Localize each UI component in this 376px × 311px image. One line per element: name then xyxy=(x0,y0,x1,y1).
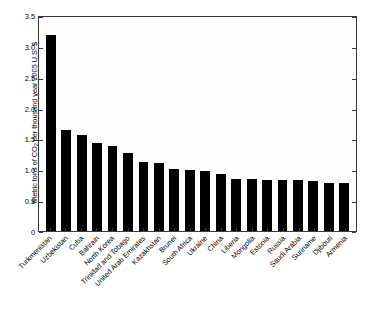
bar[interactable] xyxy=(61,130,71,231)
bar-cell[interactable] xyxy=(306,17,321,231)
x-axis-tickmark xyxy=(299,228,300,232)
bar[interactable] xyxy=(154,163,164,232)
bar[interactable] xyxy=(46,35,56,231)
bar-cell[interactable] xyxy=(321,17,336,231)
bar-cell[interactable] xyxy=(290,17,305,231)
bar[interactable] xyxy=(308,181,318,231)
bar-cell[interactable] xyxy=(182,17,197,231)
bar-cell[interactable] xyxy=(259,17,274,231)
chart-figure: Metric tons of CO2 per thousand year 200… xyxy=(0,0,376,311)
y-axis-tick-label: 2.5 xyxy=(15,75,35,82)
bar[interactable] xyxy=(123,153,133,231)
x-axis-tickmark xyxy=(345,228,346,232)
bar-cell[interactable] xyxy=(74,17,89,231)
bar-series xyxy=(39,17,356,231)
bar[interactable] xyxy=(231,179,241,231)
y-axis-tick-label: 3.0 xyxy=(15,44,35,51)
bar-cell[interactable] xyxy=(136,17,151,231)
bar[interactable] xyxy=(278,180,288,231)
y-axis-tick-label: 3.5 xyxy=(15,13,35,20)
x-axis-tickmark xyxy=(96,228,97,232)
bar[interactable] xyxy=(247,179,257,231)
x-axis-tickmark xyxy=(159,228,160,232)
bar[interactable] xyxy=(262,180,272,231)
bar[interactable] xyxy=(185,170,195,231)
bar-cell[interactable] xyxy=(244,17,259,231)
bar-cell[interactable] xyxy=(228,17,243,231)
bar-cell[interactable] xyxy=(105,17,120,231)
x-axis-tickmark xyxy=(143,228,144,232)
x-axis-tickmark xyxy=(330,228,331,232)
y-axis-tick-label: 2.0 xyxy=(15,106,35,113)
bar[interactable] xyxy=(92,143,102,231)
bar-cell[interactable] xyxy=(337,17,352,231)
bar-cell[interactable] xyxy=(58,17,73,231)
x-axis-tickmark xyxy=(112,228,113,232)
bar-cell[interactable] xyxy=(43,17,58,231)
x-axis-tickmark xyxy=(128,228,129,232)
x-axis-tickmark xyxy=(314,228,315,232)
x-axis-tickmark xyxy=(205,228,206,232)
bar[interactable] xyxy=(139,162,149,231)
bar[interactable] xyxy=(200,171,210,231)
x-axis-labels: TurkmenistanUzbekistanCubaBahrainNorth K… xyxy=(38,233,357,311)
bar-cell[interactable] xyxy=(213,17,228,231)
bar-cell[interactable] xyxy=(151,17,166,231)
bar-cell[interactable] xyxy=(198,17,213,231)
bar[interactable] xyxy=(324,183,334,231)
x-axis-tickmark xyxy=(267,228,268,232)
bar[interactable] xyxy=(339,183,349,231)
x-axis-tickmark xyxy=(190,228,191,232)
bar-cell[interactable] xyxy=(89,17,104,231)
bar-cell[interactable] xyxy=(120,17,135,231)
y-axis-tick-label: 0 xyxy=(15,229,35,236)
y-axis-tick-label: 1.5 xyxy=(15,137,35,144)
bar[interactable] xyxy=(293,180,303,231)
x-axis-tickmark xyxy=(236,228,237,232)
x-axis-tickmark xyxy=(174,228,175,232)
bar[interactable] xyxy=(77,135,87,231)
bar[interactable] xyxy=(108,146,118,231)
x-axis-tickmark xyxy=(283,228,284,232)
x-axis-tickmark xyxy=(81,228,82,232)
plot-area: 00.51.01.52.02.53.03.5 xyxy=(38,16,357,232)
bar[interactable] xyxy=(169,169,179,231)
x-axis-tickmark xyxy=(221,228,222,232)
bar[interactable] xyxy=(216,174,226,231)
y-axis-tick-label: 0.5 xyxy=(15,198,35,205)
y-axis-tick-label: 1.0 xyxy=(15,168,35,175)
x-axis-tickmark xyxy=(252,228,253,232)
bar-cell[interactable] xyxy=(275,17,290,231)
x-axis-tickmark xyxy=(50,228,51,232)
x-axis-tickmark xyxy=(65,228,66,232)
bar-cell[interactable] xyxy=(167,17,182,231)
